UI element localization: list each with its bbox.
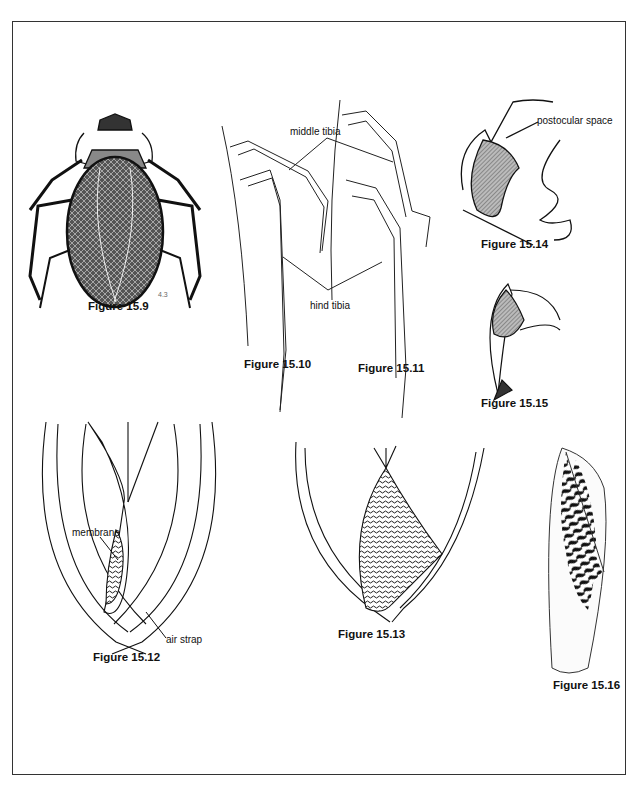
figure-15-12-drawing bbox=[42, 422, 215, 654]
artist-signature: 4.3 bbox=[158, 291, 168, 298]
caption-figure-15-15: Figure 15.15 bbox=[481, 397, 548, 409]
caption-figure-15-10: Figure 15.10 bbox=[244, 358, 311, 370]
leader-lines bbox=[283, 138, 393, 290]
figure-15-9-drawing bbox=[30, 114, 200, 308]
figure-15-13-drawing bbox=[296, 442, 484, 622]
caption-figure-15-9: Figure 15.9 bbox=[88, 300, 149, 312]
air-strap-leader bbox=[146, 612, 166, 638]
caption-figure-15-14: Figure 15.14 bbox=[481, 238, 548, 250]
figure-15-15-drawing bbox=[490, 284, 560, 400]
label-hind-tibia: hind tibia bbox=[310, 300, 350, 311]
label-middle-tibia: middle tibia bbox=[290, 126, 341, 137]
caption-figure-15-11: Figure 15.11 bbox=[358, 362, 424, 374]
caption-figure-15-13: Figure 15.13 bbox=[338, 628, 405, 640]
figure-15-16-drawing bbox=[549, 448, 606, 673]
caption-figure-15-12: Figure 15.12 bbox=[93, 651, 160, 663]
caption-figure-15-16: Figure 15.16 bbox=[553, 679, 620, 691]
label-postocular-space: postocular space bbox=[537, 115, 613, 126]
label-air-strap: air strap bbox=[166, 634, 202, 645]
label-membrane: membrane bbox=[72, 527, 120, 538]
